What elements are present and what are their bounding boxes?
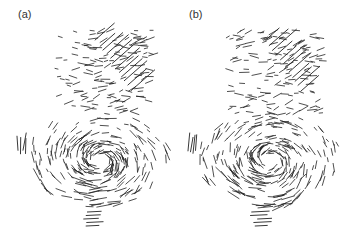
vector-field-b [176,0,352,246]
vector-field-a [0,0,176,246]
panel-a: (a) [0,0,176,246]
panel-b: (b) [176,0,352,246]
